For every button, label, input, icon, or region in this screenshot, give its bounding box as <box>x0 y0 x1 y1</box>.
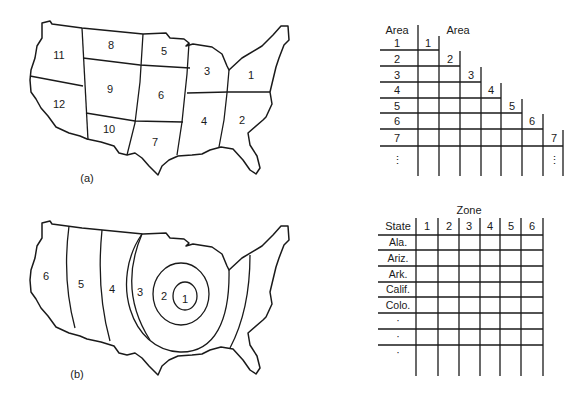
figure-b-caption: (b) <box>70 368 83 380</box>
zone-2-label: 2 <box>161 290 167 302</box>
row-label-2: 2 <box>394 53 400 65</box>
area-8-label: 8 <box>108 39 114 51</box>
row-label-4: 4 <box>394 84 400 96</box>
area-10-label: 10 <box>103 123 115 135</box>
area-matrix-table: Area Area 1 2 3 4 5 6 7 ⋮ 1 2 3 4 5 6 7 <box>380 24 563 176</box>
state-zone-table: Zone State 1 2 3 4 5 6 Ala. Ariz. Ark. C… <box>378 204 543 376</box>
zone-3-label: 3 <box>137 286 143 298</box>
state-row-colo: Colo. <box>386 299 411 311</box>
state-row-dot-3: · <box>396 346 400 358</box>
col-label-7: 7 <box>551 132 557 144</box>
area-3-label: 3 <box>204 65 210 77</box>
col-label-3: 3 <box>468 69 474 81</box>
area-9-label: 9 <box>107 83 113 95</box>
figure-a-caption: (a) <box>80 172 93 184</box>
area-6-label: 6 <box>158 89 164 101</box>
state-row-calif: Calif. <box>386 283 410 295</box>
area-5-label: 5 <box>161 45 167 57</box>
zone-col-4: 4 <box>487 220 493 232</box>
state-row-ariz: Ariz. <box>388 252 409 264</box>
col-label-2: 2 <box>447 53 453 65</box>
row-header-area: Area <box>385 24 409 36</box>
zone-title: Zone <box>456 204 481 216</box>
zone-6-label: 6 <box>43 270 49 282</box>
row-label-5: 5 <box>394 100 400 112</box>
area-7-label: 7 <box>152 136 158 148</box>
zone-4-label: 4 <box>109 283 115 295</box>
state-row-dot-2: · <box>396 330 400 342</box>
zone-1-label: 1 <box>182 293 188 305</box>
zone-5-label: 5 <box>78 278 84 290</box>
col-label-1: 1 <box>425 37 431 49</box>
row-label-7: 7 <box>394 132 400 144</box>
state-row-ark: Ark. <box>389 268 408 280</box>
zone-col-6: 6 <box>529 220 535 232</box>
col-label-5: 5 <box>509 100 515 112</box>
zone-col-2: 2 <box>446 220 452 232</box>
area-1-label: 1 <box>248 69 254 81</box>
zone-col-5: 5 <box>508 220 514 232</box>
zone-col-3: 3 <box>466 220 472 232</box>
area-2-label: 2 <box>239 114 245 126</box>
row-label-6: 6 <box>394 115 400 127</box>
row-header-state: State <box>385 220 411 232</box>
figure-canvas: 1 2 3 4 5 6 7 8 9 10 11 12 (a) Area Area <box>0 0 578 394</box>
col-header-area: Area <box>446 24 470 36</box>
area-4-label: 4 <box>201 115 207 127</box>
us-map-zones: 6 5 4 3 2 1 (b) <box>30 221 289 380</box>
state-row-ala: Ala. <box>389 236 407 248</box>
state-row-dot-1: · <box>396 314 400 326</box>
area-12-label: 12 <box>53 98 65 110</box>
col-label-6: 6 <box>529 115 535 127</box>
col-label-ellipsis: ⋮ <box>549 154 560 166</box>
row-label-3: 3 <box>394 69 400 81</box>
us-map-areas: 1 2 3 4 5 6 7 8 9 10 11 12 (a) <box>30 21 289 184</box>
zone-col-1: 1 <box>424 220 430 232</box>
area-11-label: 11 <box>53 49 64 61</box>
col-label-4: 4 <box>488 84 494 96</box>
row-label-ellipsis: ⋮ <box>392 154 403 166</box>
row-label-1: 1 <box>394 37 400 49</box>
